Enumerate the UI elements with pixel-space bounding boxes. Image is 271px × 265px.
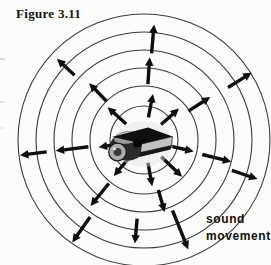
sound-arrow bbox=[161, 109, 179, 125]
sound-arrow bbox=[147, 94, 155, 118]
sound-arrow bbox=[169, 146, 193, 154]
sound-arrow bbox=[108, 107, 127, 124]
scan-artifact bbox=[1, 127, 4, 129]
scan-artifact bbox=[0, 101, 4, 103]
sound-arrow bbox=[228, 73, 252, 88]
sound-arrow bbox=[20, 150, 47, 158]
sound-arrow bbox=[149, 24, 157, 53]
scan-artifact bbox=[0, 58, 5, 60]
sound-arrow bbox=[89, 83, 106, 101]
sound-arrow bbox=[72, 217, 90, 242]
sound-arrow bbox=[158, 190, 166, 212]
whistle-cap-glint bbox=[113, 147, 116, 150]
sound-movement-line2: movement bbox=[206, 228, 271, 245]
sound-movement-line1: sound bbox=[206, 211, 271, 228]
sound-arrow bbox=[145, 57, 153, 84]
sound-arrow bbox=[91, 184, 109, 207]
sound-movement-label: sound movement bbox=[206, 211, 271, 244]
sound-arrow bbox=[132, 219, 140, 244]
figure-page: Figure 3.11 sound movement bbox=[0, 0, 271, 265]
sound-arrow bbox=[202, 155, 231, 164]
